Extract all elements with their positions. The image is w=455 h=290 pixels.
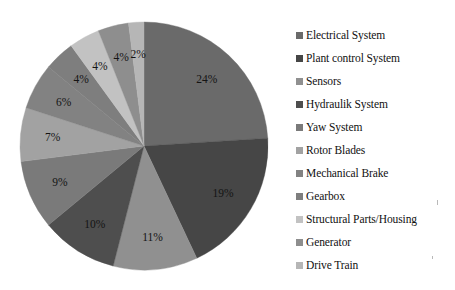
pie-slice-value-label: 7% (45, 131, 61, 143)
legend-swatch-icon (296, 124, 303, 131)
legend-item[interactable]: Electrical System (296, 24, 455, 47)
legend-item-label: Generator (306, 231, 351, 254)
pie-svg: 24%19%11%10%9%7%6%4%4%4%2% (0, 0, 290, 290)
legend-item-label: Structural Parts/Housing (306, 208, 417, 231)
legend-item-label: Mechanical Brake (306, 162, 388, 185)
legend-item-label: Gearbox (306, 185, 345, 208)
legend-swatch-icon (296, 262, 303, 269)
pie-slice-value-label: 19% (212, 187, 234, 199)
legend-item-label: Plant control System (306, 47, 400, 70)
legend-swatch-icon (296, 216, 303, 223)
legend-item-label: Hydraulik System (306, 93, 388, 116)
pie-plot-area: 24%19%11%10%9%7%6%4%4%4%2% (0, 0, 290, 290)
legend-item[interactable]: Rotor Blades (296, 139, 455, 162)
legend-item[interactable]: Hydraulik System (296, 93, 455, 116)
legend-item[interactable]: Generator (296, 231, 455, 254)
legend-item-label: Sensors (306, 70, 341, 93)
scan-speck (437, 200, 438, 205)
legend-item-label: Drive Train (306, 254, 358, 277)
legend-swatch-icon (296, 239, 303, 246)
legend-item[interactable]: Plant control System (296, 47, 455, 70)
pie-slice-value-label: 24% (196, 73, 218, 85)
scan-speck (432, 256, 433, 259)
legend-item[interactable]: Gearbox (296, 185, 455, 208)
pie-slice-value-label: 4% (74, 73, 90, 85)
legend-swatch-icon (296, 32, 303, 39)
pie-slice-value-label: 4% (114, 51, 130, 63)
pie-slice-value-label: 9% (52, 176, 68, 188)
legend-item[interactable]: Mechanical Brake (296, 162, 455, 185)
legend-item-label: Electrical System (306, 24, 385, 47)
legend-swatch-icon (296, 55, 303, 62)
legend-swatch-icon (296, 170, 303, 177)
legend-swatch-icon (296, 193, 303, 200)
legend-item[interactable]: Yaw System (296, 116, 455, 139)
pie-slice-value-label: 6% (56, 96, 72, 108)
pie-chart-figure: 24%19%11%10%9%7%6%4%4%4%2% Electrical Sy… (0, 0, 455, 290)
pie-slice-value-label: 4% (92, 60, 108, 72)
pie-slice-value-label: 2% (131, 48, 147, 60)
legend-swatch-icon (296, 147, 303, 154)
legend-swatch-icon (296, 101, 303, 108)
legend-item[interactable]: Sensors (296, 70, 455, 93)
legend-item-label: Yaw System (306, 116, 362, 139)
pie-slice-value-label: 11% (142, 231, 163, 243)
pie-slice-value-label: 10% (84, 218, 106, 230)
legend: Electrical SystemPlant control SystemSen… (296, 24, 455, 277)
legend-item[interactable]: Structural Parts/Housing (296, 208, 455, 231)
legend-swatch-icon (296, 78, 303, 85)
legend-item-label: Rotor Blades (306, 139, 365, 162)
